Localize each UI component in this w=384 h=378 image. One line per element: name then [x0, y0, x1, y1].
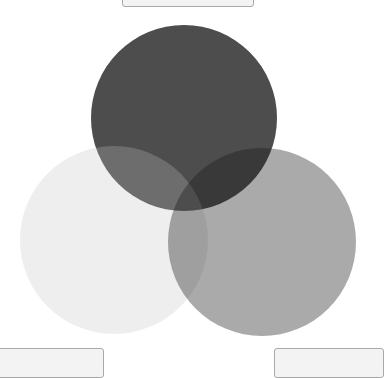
drop-slot-bottom-left[interactable] — [0, 348, 104, 378]
drop-slot-bottom-right[interactable] — [274, 348, 384, 378]
circle-right[interactable] — [168, 148, 356, 336]
